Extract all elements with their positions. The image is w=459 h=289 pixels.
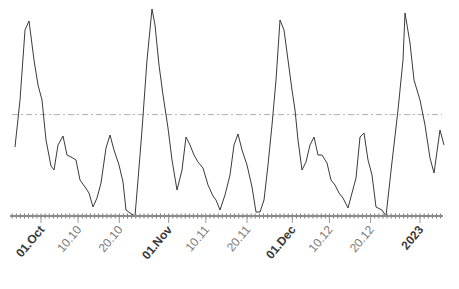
x-axis-ticks: [12, 214, 440, 224]
x-tick-label: 20.11: [224, 223, 254, 255]
x-tick-label: 01.Oct: [13, 223, 47, 260]
x-tick-label: 01.Dec: [263, 223, 299, 262]
x-axis-tick-labels: 01.Oct10.1020.1001.Nov10.1120.1101.Dec10…: [13, 223, 427, 262]
x-tick-label: 10.11: [183, 223, 213, 255]
x-tick-label: 20.10: [96, 223, 126, 255]
data-series-line: [15, 9, 444, 216]
line-chart: 01.Oct10.1020.1001.Nov10.1120.1101.Dec10…: [0, 0, 459, 289]
x-tick-label: 2023: [398, 223, 426, 253]
x-tick-label: 20.12: [347, 223, 377, 255]
chart-canvas: 01.Oct10.1020.1001.Nov10.1120.1101.Dec10…: [0, 0, 459, 289]
x-tick-label: 10.12: [306, 223, 336, 255]
x-tick-label: 01.Nov: [139, 223, 175, 262]
x-tick-label: 10.10: [54, 223, 84, 255]
